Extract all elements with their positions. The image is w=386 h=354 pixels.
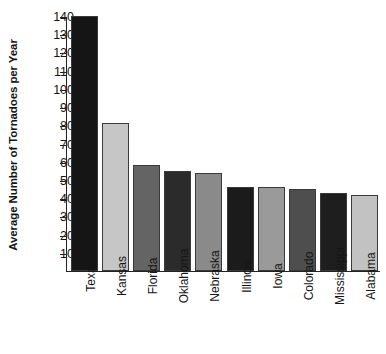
bar-iowa xyxy=(258,187,285,271)
x-label-slot: Florida xyxy=(130,274,161,354)
bar-slot xyxy=(131,17,162,271)
bar-slot xyxy=(318,17,349,271)
x-axis-label-oklahoma: Oklahoma xyxy=(177,249,191,304)
bar-kansas xyxy=(102,123,129,271)
bar-texas xyxy=(71,16,98,271)
bar-slot xyxy=(287,17,318,271)
x-label-slot: Illinois xyxy=(224,274,255,354)
y-axis-title-text: Average Number of Tornadoes per Year xyxy=(7,39,19,251)
x-axis-label-iowa: Iowa xyxy=(271,263,285,288)
x-axis-label-florida: Florida xyxy=(146,258,160,295)
tornado-bar-chart: Average Number of Tornadoes per Year 140… xyxy=(0,0,386,354)
plot-area xyxy=(66,17,380,272)
x-axis-label-texas: Texas xyxy=(84,260,98,291)
bar-florida xyxy=(133,165,160,271)
x-label-slot: Colorado xyxy=(286,274,317,354)
x-axis-label-kansas: Kansas xyxy=(115,256,129,296)
x-label-slot: Texas xyxy=(68,274,99,354)
x-label-slot: Iowa xyxy=(255,274,286,354)
x-axis-labels: TexasKansasFloridaOklahomaNebraskaIllino… xyxy=(66,274,380,354)
bar-slot xyxy=(69,17,100,271)
y-axis-title: Average Number of Tornadoes per Year xyxy=(0,0,26,290)
x-axis-label-alabama: Alabama xyxy=(364,252,378,299)
x-axis-label-nebraska: Nebraska xyxy=(208,250,222,301)
x-label-slot: Mississippi xyxy=(318,274,349,354)
x-axis-label-mississippi: Mississippi xyxy=(333,247,347,305)
x-label-slot: Kansas xyxy=(99,274,130,354)
x-label-slot: Alabama xyxy=(349,274,380,354)
x-axis-label-colorado: Colorado xyxy=(302,252,316,301)
x-axis-label-illinois: Illinois xyxy=(240,259,254,292)
x-label-slot: Oklahoma xyxy=(162,274,193,354)
bar-slot xyxy=(349,17,380,271)
bar-slot xyxy=(100,17,131,271)
bar-slot xyxy=(162,17,193,271)
bar-slot xyxy=(193,17,224,271)
bar-slot xyxy=(224,17,255,271)
bar-series xyxy=(67,17,380,271)
bar-slot xyxy=(256,17,287,271)
x-label-slot: Nebraska xyxy=(193,274,224,354)
